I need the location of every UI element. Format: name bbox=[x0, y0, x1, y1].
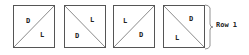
tile-2-upper-label: L bbox=[90, 17, 94, 24]
row-label: Row 1 bbox=[216, 21, 237, 29]
tile-4: D L bbox=[163, 5, 205, 48]
diagonal-line bbox=[14, 6, 54, 47]
diagonal-line bbox=[65, 6, 105, 47]
tile-4-lower-label: L bbox=[175, 35, 179, 42]
tile-3-lower-label: D bbox=[139, 32, 143, 39]
diagonal-line bbox=[114, 6, 154, 47]
row-brace-icon bbox=[204, 4, 214, 50]
tile-2: L D bbox=[64, 5, 106, 48]
tile-3-upper-label: L bbox=[123, 18, 127, 25]
tile-2-lower-label: D bbox=[75, 33, 79, 40]
tile-4-upper-label: D bbox=[189, 16, 193, 23]
tile-1-upper-label: D bbox=[26, 18, 30, 25]
tile-1: D L bbox=[13, 5, 55, 48]
tile-3: L D bbox=[113, 5, 155, 48]
diagonal-line bbox=[164, 6, 204, 47]
tile-1-lower-label: L bbox=[40, 32, 44, 39]
